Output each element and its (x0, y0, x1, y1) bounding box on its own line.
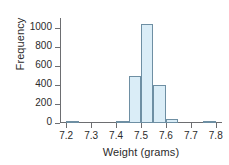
y-axis-tick-label: 1000 (30, 21, 52, 32)
y-axis-tick: 0 (55, 123, 60, 124)
x-axis-tick (216, 123, 217, 128)
histogram-bar (66, 121, 78, 123)
y-axis-tick-label: 800 (35, 40, 52, 51)
x-axis-tick (191, 123, 192, 128)
histogram-bar (203, 121, 215, 123)
y-axis-tick-label: 0 (46, 116, 52, 127)
y-axis-title: Frequency (14, 0, 26, 92)
histogram-bar (153, 85, 165, 123)
x-axis-tick (66, 123, 67, 128)
plot-area: 02004006008001000 7.27.37.47.57.67.77.8 (60, 18, 222, 123)
histogram-chart: Frequency 02004006008001000 7.27.37.47.5… (0, 0, 229, 165)
y-axis-tick-label: 200 (35, 97, 52, 108)
y-axis-tick-label: 400 (35, 78, 52, 89)
histogram-bar (116, 121, 128, 123)
histogram-bar (129, 76, 141, 123)
x-axis-title: Weight (grams) (56, 146, 226, 158)
histogram-bar (141, 24, 153, 123)
x-axis-tick (166, 123, 167, 128)
x-axis-tick (91, 123, 92, 128)
histogram-bar (166, 119, 178, 123)
y-axis-tick-label: 600 (35, 59, 52, 70)
x-axis-tick (116, 123, 117, 128)
bars-group (60, 18, 222, 123)
x-axis-tick-label: 7.8 (201, 130, 229, 141)
x-axis-tick (141, 123, 142, 128)
